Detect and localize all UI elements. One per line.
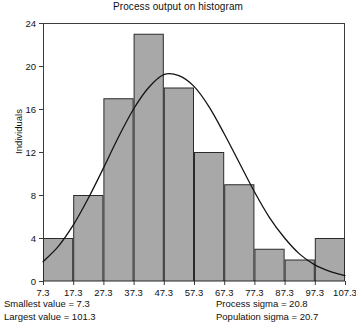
histogram-bar-4 — [164, 88, 193, 281]
x-tick-label-8: 87.3 — [275, 287, 294, 298]
x-tick-label-4: 47.3 — [155, 287, 174, 298]
histogram-bar-8 — [285, 260, 314, 281]
histogram-bar-7 — [255, 249, 284, 281]
histogram-bar-5 — [195, 153, 224, 282]
population-sigma-text: Population sigma = 20.7 — [216, 311, 318, 324]
histogram-bar-6 — [225, 185, 254, 281]
histogram-chart: Process output on histogram Individuals … — [0, 0, 356, 329]
x-tick-label-5: 57.3 — [185, 287, 204, 298]
y-tick-label-1: 4 — [31, 233, 36, 244]
x-tick-label-7: 77.3 — [245, 287, 264, 298]
y-tick-label-3: 12 — [25, 147, 36, 158]
x-tick-label-0: 7.3 — [36, 287, 49, 298]
histogram-bar-1 — [74, 196, 103, 282]
bars-group — [44, 34, 345, 281]
footer-left-column: Smallest value = 7.3 Largest value = 101… — [4, 298, 96, 323]
histogram-bar-2 — [104, 99, 133, 281]
y-tick-label-5: 20 — [25, 61, 36, 72]
footer-right-column: Process sigma = 20.8 Population sigma = … — [216, 298, 318, 323]
plot-area: 048121620247.317.327.337.347.357.367.377… — [0, 0, 356, 298]
y-tick-label-4: 16 — [25, 104, 36, 115]
x-tick-label-3: 37.3 — [124, 287, 143, 298]
x-tick-label-2: 27.3 — [94, 287, 113, 298]
y-tick-label-6: 24 — [25, 18, 36, 29]
histogram-bar-0 — [44, 239, 73, 282]
x-tick-label-9: 97.3 — [306, 287, 325, 298]
chart-footer: Smallest value = 7.3 Largest value = 101… — [0, 298, 356, 329]
largest-value-text: Largest value = 101.3 — [4, 311, 96, 324]
histogram-bar-3 — [134, 34, 163, 281]
y-tick-label-0: 0 — [31, 276, 36, 287]
process-sigma-text: Process sigma = 20.8 — [216, 298, 318, 311]
x-tick-label-1: 17.3 — [64, 287, 83, 298]
smallest-value-text: Smallest value = 7.3 — [4, 298, 96, 311]
y-tick-label-2: 8 — [31, 190, 36, 201]
x-tick-label-6: 67.3 — [215, 287, 234, 298]
x-tick-label-10: 107.3 — [333, 287, 356, 298]
